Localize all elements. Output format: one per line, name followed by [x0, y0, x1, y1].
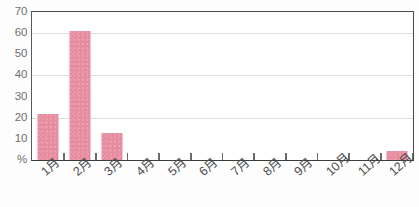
y-axis-label: 10	[15, 133, 27, 145]
bars-layer	[33, 12, 413, 160]
bar-slot	[381, 12, 413, 160]
bar-slot	[223, 12, 255, 160]
bar-slot	[64, 12, 96, 160]
bar	[38, 114, 59, 161]
bar-slot	[318, 12, 350, 160]
y-axis-label: 60	[15, 27, 27, 39]
bar	[69, 31, 90, 160]
y-axis-label: %	[17, 154, 27, 166]
y-axis-label: 40	[15, 70, 27, 82]
bar-slot	[286, 12, 318, 160]
bar-slot	[159, 12, 191, 160]
y-axis: %10203040506070	[0, 0, 31, 161]
x-axis: 1月2月3月4月5月6月7月8月9月10月11月12月	[33, 163, 413, 207]
bar	[101, 133, 122, 160]
y-axis-label: 20	[15, 112, 27, 124]
bar-slot	[33, 12, 65, 160]
bar-slot	[191, 12, 223, 160]
y-axis-label: 30	[15, 91, 27, 103]
bar-slot	[128, 12, 160, 160]
y-axis-label: 50	[15, 49, 27, 61]
bar-slot	[254, 12, 286, 160]
bar-chart: %10203040506070 1月2月3月4月5月6月7月8月9月10月11月…	[0, 0, 419, 207]
y-axis-label: 70	[15, 6, 27, 18]
bar-slot	[96, 12, 128, 160]
bar-slot	[349, 12, 381, 160]
